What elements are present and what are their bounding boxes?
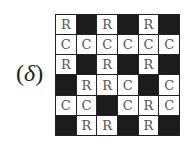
cell-grid: RRRCCCCCCRRRRRCCCCCRCRRR [55,14,180,136]
grid-cell-black [56,116,76,135]
grid-cell-white: C [118,96,138,115]
grid-cell-white: R [97,55,117,74]
grid-cell-white: R [97,15,117,34]
grid-cell-white: C [97,35,117,54]
grid-cell-black [56,75,76,94]
grid-cell-white: R [139,116,159,135]
grid-cell-white: C [139,35,159,54]
grid-cell-white: R [77,116,97,135]
label-close-paren: ) [35,60,43,86]
grid-cell-white: C [56,96,76,115]
grid-cell-white: R [139,55,159,74]
grid-cell-black [118,116,138,135]
grid-cell-white: C [118,75,138,94]
diagram-label: (δ) [16,60,43,87]
grid-cell-black [159,116,179,135]
grid-cell-white: C [159,96,179,115]
grid-cell-black [77,15,97,34]
grid-cell-white: R [77,75,97,94]
grid-cell-white: R [139,96,159,115]
grid-cell-white: R [56,15,76,34]
grid-cell-white: C [159,75,179,94]
label-open-paren: ( [16,60,24,86]
grid-cell-black [139,75,159,94]
label-symbol: δ [24,60,35,86]
grid-cell-black [97,96,117,115]
grid-cell-white: R [97,75,117,94]
grid-cell-white: R [56,55,76,74]
grid-cell-white: R [97,116,117,135]
grid-cell-black [77,55,97,74]
grid-cell-white: C [77,35,97,54]
grid-cell-black [159,15,179,34]
grid-cell-white: C [56,35,76,54]
grid-cell-white: C [118,35,138,54]
grid-cell-black [118,55,138,74]
grid-cell-black [118,15,138,34]
grid-cell-white: R [139,15,159,34]
grid-cell-white: C [77,96,97,115]
grid-cell-black [159,55,179,74]
grid-cell-white: C [159,35,179,54]
